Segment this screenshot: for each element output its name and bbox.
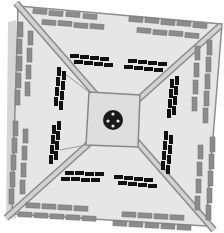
fountain-icon (103, 110, 123, 130)
plaza-diagram (0, 0, 224, 233)
plaza-plan-svg (0, 0, 224, 233)
